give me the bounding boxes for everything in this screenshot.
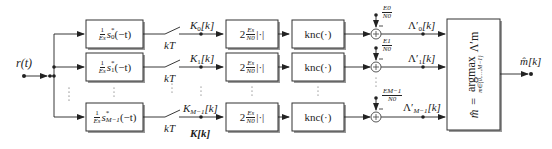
metric-label-0: Λ′0[k] — [408, 20, 435, 33]
vector-label: K[k] — [190, 128, 210, 139]
scale-block-1-text: 2EsN0|·| — [226, 53, 278, 81]
sampler-label-1: kT — [164, 73, 175, 84]
input-line — [22, 74, 56, 78]
bias-label-m-1: EM−1N0 — [381, 86, 403, 103]
sample-label-m-1: KM−1[k] — [183, 103, 218, 116]
matched-filter-m-1-text: 1Es s*M−1(−t) — [86, 103, 143, 131]
sample-label-0: K0[k] — [190, 20, 214, 33]
metric-label-m-1: Λ′M−1[k] — [403, 102, 441, 115]
metric-label-1: Λ′1[k] — [408, 53, 435, 66]
matched-filter-0-text: 1Es s*0(−t) — [86, 20, 143, 48]
split-bus — [52, 34, 84, 117]
bias-label-1: E1N0 — [381, 36, 393, 53]
nonlinearity-0-text: knc(·) — [292, 20, 344, 48]
matched-filter-1-text: 1Es s*1(−t) — [86, 53, 143, 81]
nonlinearity-m-1-text: knc(·) — [292, 103, 344, 131]
bias-label-0: E0N0 — [381, 3, 393, 20]
scale-block-0-text: 2EsN0|·| — [226, 20, 278, 48]
output-label: m̂[k] — [520, 56, 541, 67]
decision-rule: m̂ = argmax m∈{0,…,M−1} Λ′m — [450, 22, 498, 128]
input-label: r(t) — [16, 57, 32, 69]
nonlinearity-1-text: knc(·) — [292, 53, 344, 81]
sample-label-1: K1[k] — [190, 53, 214, 66]
sampler-label-0: kT — [164, 40, 175, 51]
sampler-label-m-1: kT — [164, 123, 175, 134]
scale-block-m-1-text: 2EsN0|·| — [226, 103, 278, 131]
